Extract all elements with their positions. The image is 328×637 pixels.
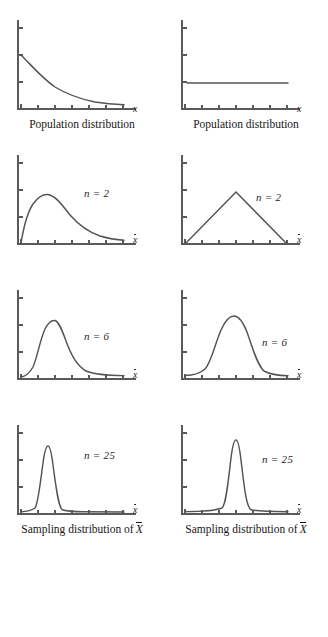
x-axis-label: x (297, 505, 301, 515)
x-bar-symbol: X (136, 523, 143, 535)
density-curve (21, 55, 124, 105)
sample-size-label: n = 2 (84, 187, 109, 199)
density-curve (21, 194, 124, 243)
y-axis-ticks (182, 298, 187, 379)
x-axis-label: x (133, 370, 137, 380)
density-curve (21, 320, 124, 377)
x-bar-glyph: x (133, 370, 137, 380)
axes (18, 290, 136, 379)
caption-text: Population distribution (29, 118, 135, 130)
axes (182, 425, 300, 514)
x-axis-ticks (185, 239, 287, 244)
right-column: x Population distribution (164, 0, 328, 637)
x-bar-glyph: x (133, 235, 137, 245)
axes (182, 155, 300, 244)
x-axis-ticks (21, 239, 123, 244)
panel-right-n25: n = 25 x Sampling distribution ofX (164, 413, 328, 546)
x-bar-glyph: x (297, 370, 301, 380)
y-axis-ticks (18, 163, 23, 244)
x-bar-glyph: x (133, 505, 137, 515)
x-bar-glyph: x (297, 235, 301, 245)
x-axis-label: x (297, 370, 301, 380)
left-column: x Population distribution (0, 0, 164, 637)
y-axis-ticks (182, 28, 187, 109)
plot-right-n6 (164, 278, 328, 411)
plot-left-n6 (0, 278, 164, 411)
panel-left-population: x Population distribution (0, 8, 164, 141)
y-axis-ticks (182, 163, 187, 244)
x-bar-symbol: X (300, 523, 307, 535)
x-axis-label: x (133, 505, 137, 515)
x-axis-ticks (185, 374, 287, 379)
sampling-distributions-figure: x Population distribution (0, 0, 328, 637)
axes (182, 20, 300, 109)
panel-caption: Sampling distribution ofX (0, 523, 164, 535)
axes (18, 425, 136, 514)
x-axis-ticks (185, 104, 287, 109)
x-axis-label: x (297, 104, 301, 114)
plot-left-n2 (0, 143, 164, 276)
plot-right-n2 (164, 143, 328, 276)
y-axis-ticks (18, 433, 23, 514)
caption-prefix: Sampling distribution of (21, 523, 133, 535)
y-axis-ticks (182, 433, 187, 514)
x-axis-label: x (133, 104, 137, 114)
sample-size-label: n = 25 (84, 449, 115, 461)
y-axis-ticks (18, 28, 23, 109)
panel-right-n6: n = 6 x (164, 278, 328, 411)
panel-caption: Population distribution (164, 118, 328, 130)
sample-size-label: n = 2 (256, 191, 281, 203)
axes (18, 20, 136, 109)
sample-size-label: n = 25 (262, 453, 293, 465)
panel-right-population: x Population distribution (164, 8, 328, 141)
panel-left-n2: n = 2 x (0, 143, 164, 276)
x-bar-glyph: x (297, 505, 301, 515)
caption-text: Population distribution (193, 118, 299, 130)
panel-caption: Sampling distribution ofX (164, 523, 328, 535)
y-axis-ticks (18, 298, 23, 379)
x-axis-label: x (133, 235, 137, 245)
axes (18, 155, 136, 244)
panel-caption: Population distribution (0, 118, 164, 130)
panel-right-n2: n = 2 x (164, 143, 328, 276)
axes (182, 290, 300, 379)
sample-size-label: n = 6 (262, 336, 287, 348)
x-axis-ticks (21, 104, 123, 109)
density-curve (185, 440, 288, 512)
panel-left-n6: n = 6 x (0, 278, 164, 411)
panel-left-n25: n = 25 x Sampling distribution ofX (0, 413, 164, 546)
sample-size-label: n = 6 (84, 330, 109, 342)
x-axis-label: x (297, 235, 301, 245)
caption-prefix: Sampling distribution of (185, 523, 297, 535)
